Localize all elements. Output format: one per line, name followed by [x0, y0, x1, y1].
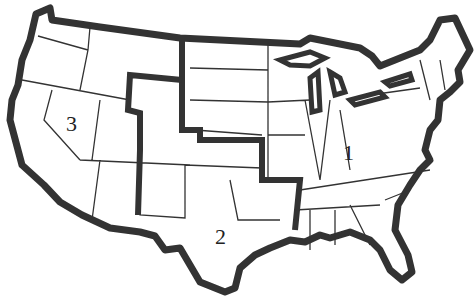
region-label-1: 1	[343, 140, 354, 166]
us-regions-map: 1 2 3	[0, 0, 476, 300]
region-label-2: 2	[215, 224, 226, 250]
map-svg	[0, 0, 476, 300]
country-outline	[10, 8, 470, 292]
region-label-3: 3	[66, 111, 77, 137]
